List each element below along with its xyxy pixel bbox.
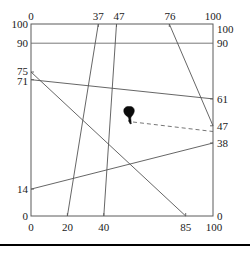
nomogram-svg: 0 37 47 76 100 0 20 40 85 100 100 90 75 …: [0, 0, 250, 254]
mouse-cursor-icon: [124, 106, 135, 124]
series-line-14-38: [31, 143, 213, 189]
top-tick-label-47: 47: [114, 10, 126, 22]
left-tick-label-0: 0: [23, 210, 29, 222]
bottom-tick-label-20: 20: [62, 221, 74, 233]
right-tick-label-90: 90: [217, 37, 229, 49]
top-tick-label-37: 37: [93, 10, 105, 22]
top-tick-label-0: 0: [28, 10, 34, 22]
bottom-tick-label-100: 100: [206, 221, 223, 233]
top-tick-label-76: 76: [165, 10, 177, 22]
series-line-76-47: [169, 24, 213, 126]
nomogram-figure: 0 37 47 76 100 0 20 40 85 100 100 90 75 …: [0, 0, 250, 254]
left-tick-label-100: 100: [12, 18, 29, 30]
left-tick-label-14: 14: [17, 183, 29, 195]
series-line-dashed: [133, 122, 213, 132]
right-tick-label-0: 0: [217, 210, 223, 222]
right-tick-label-47: 47: [217, 120, 229, 132]
series-line-47-40: [104, 24, 117, 216]
series-line-71-61: [31, 80, 213, 99]
left-tick-label-71: 71: [17, 75, 28, 87]
right-tick-label-100: 100: [217, 23, 234, 35]
left-tick-label-90: 90: [17, 37, 29, 49]
top-tick-label-100: 100: [205, 10, 222, 22]
plot-frame: [31, 24, 213, 216]
right-tick-label-61: 61: [217, 93, 228, 105]
bottom-tick-label-40: 40: [98, 221, 110, 233]
right-tick-label-38: 38: [217, 137, 229, 149]
bottom-tick-label-0: 0: [28, 221, 34, 233]
bottom-tick-label-85: 85: [180, 221, 192, 233]
series-line-37-20: [67, 24, 98, 216]
